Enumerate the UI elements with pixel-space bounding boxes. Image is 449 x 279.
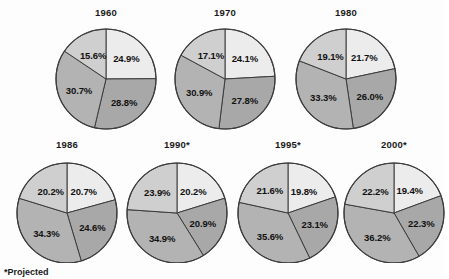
pie-title: 1960 [47,6,165,19]
pie-body: 20.2%20.9%34.9%23.9% [118,151,236,263]
pie-row-top: 196024.9%28.8%30.7%15.6%197024.1%27.8%30… [0,6,444,136]
pie-slice-label: 17.1% [198,50,224,61]
pie-chart-1990: 1990*20.2%20.9%34.9%23.9% [118,138,236,263]
pie-body: 20.7%24.6%34.3%20.2% [8,151,126,263]
footnote-projected: *Projected [4,267,49,277]
pie-slice-label: 23.1% [301,219,327,230]
pie-graphic [118,151,236,263]
pie-graphic [335,151,449,263]
pie-body: 24.1%27.8%30.9%17.1% [166,19,284,131]
pie-slice-label: 34.3% [33,228,59,239]
pie-slice-label: 22.2% [362,185,388,196]
pie-slice-label: 34.9% [149,232,175,243]
pie-slice-label: 20.9% [190,217,216,228]
pie-graphic [287,19,405,131]
pie-slice-label: 21.7% [351,51,377,62]
pie-slice-label: 22.3% [408,217,434,228]
pie-chart-2000: 2000*19.4%22.3%36.2%22.2% [335,138,449,263]
pie-graphic [8,151,126,263]
pie-title: 2000* [335,138,449,151]
pie-slice-label: 27.8% [232,95,258,106]
pie-body: 19.8%23.1%35.6%21.6% [229,151,347,263]
pie-graphic [166,19,284,131]
pie-graphic [47,19,165,131]
pie-title: 1986 [8,138,126,151]
pie-slice-label: 20.7% [70,186,96,197]
pie-slice-label: 19.4% [396,185,422,196]
pie-slice-label: 24.6% [79,222,105,233]
pie-slice-label: 24.1% [232,52,258,63]
pie-slice-label: 28.8% [111,96,137,107]
pie-slice-label: 20.2% [37,185,63,196]
pie-slice-label: 35.6% [257,230,283,241]
pie-chart-1960: 196024.9%28.8%30.7%15.6% [47,6,165,131]
pie-chart-1995: 1995*19.8%23.1%35.6%21.6% [229,138,347,263]
pie-slice-label: 24.9% [113,53,139,64]
pie-title: 1980 [287,6,405,19]
pie-chart-1970: 197024.1%27.8%30.9%17.1% [166,6,284,131]
pie-slice-label: 30.7% [66,84,92,95]
pie-body: 24.9%28.8%30.7%15.6% [47,19,165,131]
pie-title: 1970 [166,6,284,19]
pie-body: 19.4%22.3%36.2%22.2% [335,151,449,263]
pie-chart-1980: 198021.7%26.0%33.3%19.1% [287,6,405,131]
pie-slice-label: 30.9% [186,87,212,98]
pie-title: 1995* [229,138,347,151]
pie-body: 21.7%26.0%33.3%19.1% [287,19,405,131]
pie-title: 1990* [118,138,236,151]
pie-chart-1986: 198620.7%24.6%34.3%20.2% [8,138,126,263]
pie-graphic [229,151,347,263]
pie-slice-label: 19.1% [317,51,343,62]
pie-slice-label: 20.2% [180,185,206,196]
pie-slice-label: 21.6% [257,185,283,196]
pie-slice-label: 26.0% [357,90,383,101]
pie-slice-label: 19.8% [291,185,317,196]
pie-slice-label: 15.6% [80,49,106,60]
pie-row-bottom: 198620.7%24.6%34.3%20.2%1990*20.2%20.9%3… [0,138,444,279]
pie-slice-label: 36.2% [364,231,390,242]
pie-slice-label: 23.9% [144,186,170,197]
pie-slice-label: 33.3% [310,92,336,103]
